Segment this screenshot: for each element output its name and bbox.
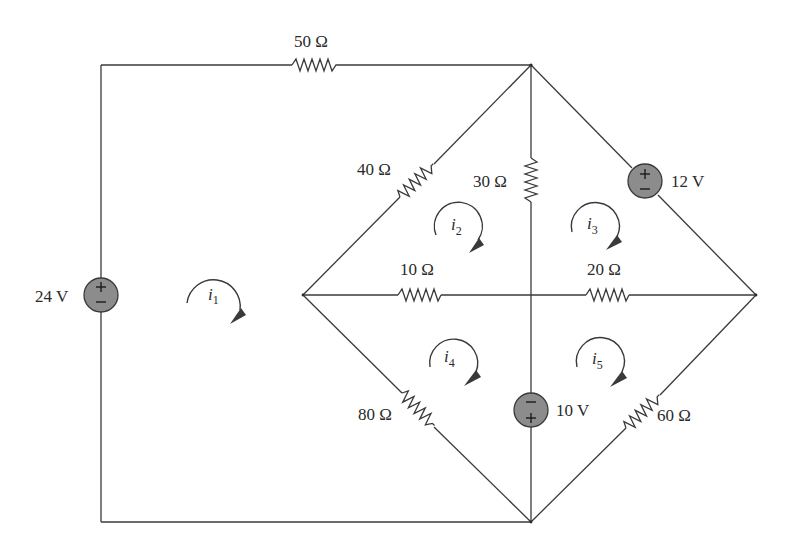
label-r20: 20 Ω (587, 260, 621, 279)
label-r40: 40 Ω (357, 160, 391, 179)
label-r30: 30 Ω (473, 172, 507, 191)
resistor-80-icon (398, 389, 439, 430)
svg-text:i3: i3 (587, 214, 598, 237)
mesh-i4-subscript: 4 (449, 356, 455, 370)
mesh-i4: i4 (430, 339, 481, 386)
label-v24: 24 V (35, 287, 69, 306)
mesh-i1: i1 (187, 280, 246, 324)
node-top (529, 63, 532, 66)
wire-12v-lower (658, 195, 756, 295)
resistor-40-icon (396, 160, 438, 202)
component-labels: 50 Ω 40 Ω 30 Ω 10 Ω 20 Ω 80 Ω 60 Ω 24 V … (35, 32, 705, 425)
svg-text:i5: i5 (592, 349, 603, 372)
label-v10: 10 V (556, 401, 590, 420)
label-r60: 60 Ω (657, 406, 691, 425)
mesh-i5: i5 (576, 338, 627, 387)
nodes (302, 63, 758, 523)
mesh-i2-subscript: 2 (456, 224, 462, 238)
resistor-20-icon (586, 289, 629, 301)
voltage-source-10v-icon (514, 393, 548, 427)
label-r50: 50 Ω (294, 32, 328, 51)
voltage-source-12v-icon (628, 164, 662, 198)
mesh-i3-subscript: 3 (592, 223, 598, 237)
mesh-i2: i2 (434, 202, 484, 253)
resistor-50-icon (292, 59, 338, 71)
arrow-head-icon (464, 370, 481, 386)
voltage-source-24v-icon (84, 278, 118, 312)
mesh-i3: i3 (571, 203, 622, 250)
svg-text:i4: i4 (444, 347, 455, 370)
svg-text:i2: i2 (451, 215, 462, 238)
wire-12v-upper (531, 65, 632, 168)
label-r10: 10 Ω (400, 260, 434, 279)
label-r80: 80 Ω (358, 405, 392, 424)
wire-60-upper (660, 295, 756, 395)
resistor-10-icon (398, 289, 441, 301)
wire-40-lower (303, 197, 400, 295)
arrow-head-icon (469, 238, 484, 253)
resistor-30-icon (525, 158, 537, 202)
mesh-i5-subscript: 5 (597, 358, 603, 372)
mesh-i1-subscript: 1 (213, 293, 219, 307)
svg-text:i1: i1 (208, 285, 219, 307)
wire-60-lower (531, 428, 626, 522)
node-bottom (530, 521, 533, 524)
wires (101, 65, 756, 522)
wire-80-lower (434, 427, 531, 522)
node-right (755, 294, 758, 297)
arrow-head-icon (230, 308, 246, 324)
arrow-head-icon (606, 235, 622, 250)
wire-40-upper (434, 65, 531, 164)
circuit-diagram: 50 Ω 40 Ω 30 Ω 10 Ω 20 Ω 80 Ω 60 Ω 24 V … (0, 0, 796, 554)
node-left (302, 294, 305, 297)
label-v12: 12 V (671, 172, 705, 191)
wire-80-upper (303, 295, 402, 393)
arrow-head-icon (610, 371, 627, 387)
